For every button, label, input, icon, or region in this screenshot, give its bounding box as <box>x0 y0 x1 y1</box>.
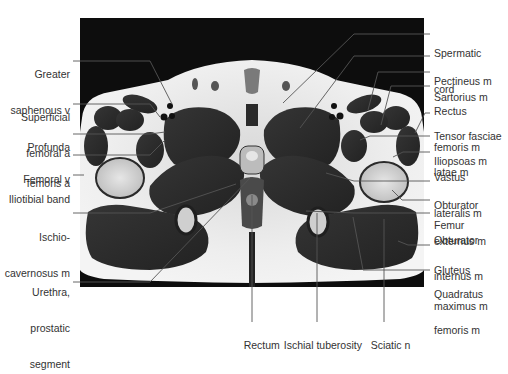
right-femur <box>360 162 408 202</box>
left-femur <box>96 158 144 198</box>
label-sciatic-n: Sciatic n <box>359 327 409 363</box>
label-rectum: Rectum <box>232 327 272 363</box>
left-ischial-tuberosity <box>176 206 196 234</box>
penile-root <box>244 68 260 94</box>
urethra <box>246 151 258 161</box>
label-quadratus-femoris-m: Quadratus femoris m <box>434 264 483 360</box>
label-ischial-tuberosity: Ischial tuberosity <box>272 327 362 363</box>
label-urethra-prostatic-segment: Urethra, prostatic segment <box>0 262 70 374</box>
corpus-spongiosum <box>246 104 258 126</box>
